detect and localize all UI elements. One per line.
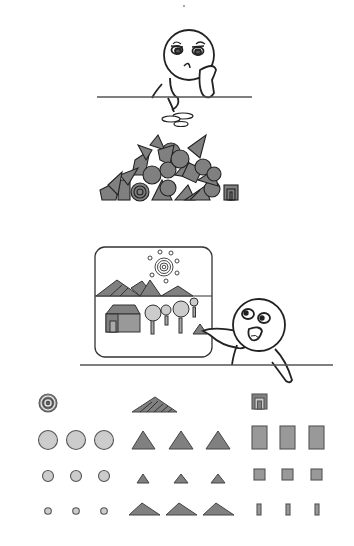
sorted-rectangles	[252, 394, 324, 515]
striped-triangle	[132, 397, 177, 412]
sorted-triangles	[129, 397, 234, 515]
illustration-canvas	[0, 0, 354, 546]
shape-pile	[100, 135, 238, 201]
bored-character	[97, 5, 252, 126]
arch-square	[252, 394, 267, 409]
house	[106, 305, 140, 332]
picture-frame	[95, 247, 212, 357]
sorted-circles	[39, 394, 114, 514]
concentric-circle	[39, 394, 57, 412]
